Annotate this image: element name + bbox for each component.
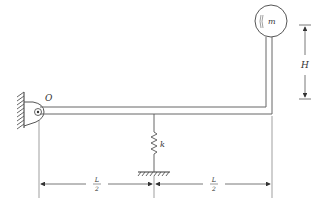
svg-text:2: 2	[211, 185, 216, 192]
svg-text:L: L	[94, 176, 99, 184]
svg-text:2: 2	[94, 185, 99, 192]
mass-label: m	[268, 17, 276, 26]
left-half-length-label: L 2	[93, 176, 101, 192]
right-half-length-label: L 2	[210, 176, 218, 192]
frame-diagram: O m k	[0, 0, 324, 208]
pivot-label: O	[45, 93, 53, 103]
spring-label: k	[160, 140, 165, 149]
extension-lines	[39, 116, 272, 198]
fixed-wall	[17, 92, 24, 129]
l-frame	[40, 37, 272, 114]
spring	[151, 114, 157, 172]
height-label: H	[300, 60, 309, 70]
ground	[138, 172, 170, 176]
svg-text:L: L	[211, 176, 216, 184]
